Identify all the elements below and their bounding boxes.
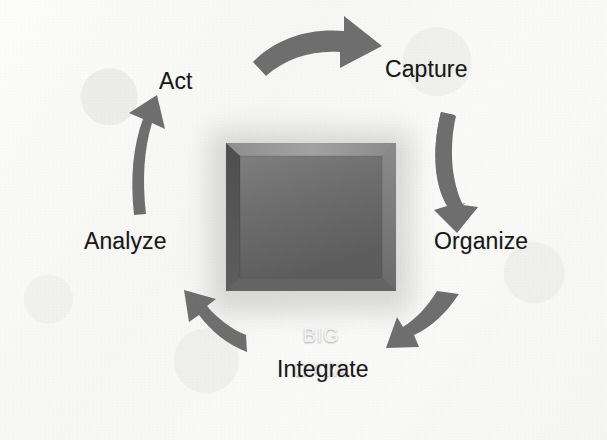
stage-label-capture: Capture	[385, 56, 468, 83]
stage-label-integrate: Integrate	[277, 356, 369, 383]
stage-label-organize: Organize	[434, 228, 528, 255]
arrow-analyze-to-act	[129, 95, 165, 215]
center-box: BIG DATA	[226, 143, 396, 291]
center-box-line1: BIG	[236, 324, 406, 347]
stage-label-act: Act	[159, 68, 193, 95]
arrow-act-to-capture	[253, 16, 382, 76]
arrow-capture-to-organize	[434, 112, 478, 233]
stage-label-analyze: Analyze	[84, 228, 167, 255]
center-box-face	[226, 143, 396, 291]
big-data-cycle-diagram: BIG DATA Act Capture Organize Integrate …	[0, 0, 607, 440]
